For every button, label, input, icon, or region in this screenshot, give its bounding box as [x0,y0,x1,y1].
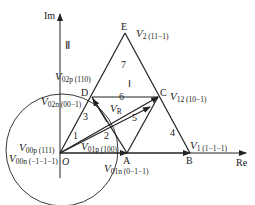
region-7: 7 [121,60,126,70]
region-I: Ⅰ [128,79,131,89]
region-3: 3 [83,112,88,122]
point-O: O [62,157,69,167]
label-V01n: V01n (0−1−1) [104,163,149,176]
im-axis-label: Im [44,11,55,21]
region-1: 1 [73,131,78,141]
region-6: 6 [119,92,124,102]
point-B: B [186,156,193,166]
label-VR: VR [110,103,122,116]
quadrant-label: Ⅱ [65,40,70,51]
vector-AD [93,99,107,122]
region-5: 5 [132,113,137,123]
label-V12: V12 (10−1) [170,91,207,104]
label-V00n: V00n (−1−1−1) [9,153,58,166]
point-E: E [121,22,127,32]
point-D: D [81,88,88,98]
point-C: C [160,88,167,98]
label-V02n: V02n (00−1) [41,96,81,109]
label-V2: V2 (11−1) [136,28,169,41]
label-V1: V1 (1−1−1) [190,140,227,153]
re-axis-label: Re [236,158,247,168]
label-V01p: V01p (100) [81,141,117,154]
label-V02p: V02p (110) [55,71,91,84]
region-4: 4 [170,128,175,138]
region-2: 2 [104,131,109,141]
